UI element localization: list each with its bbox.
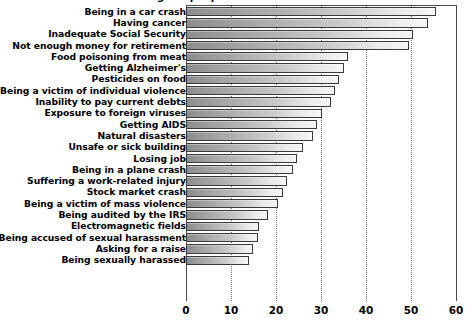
bar: [186, 176, 287, 185]
bar-track: [186, 233, 456, 242]
category-label: Inadequate Social Security: [48, 29, 186, 39]
bar-track: [186, 165, 456, 174]
chart-row: Being a victim of mass violence: [0, 198, 474, 209]
bar: [186, 154, 297, 163]
chart-row: Being accused of sexual harassment: [0, 232, 474, 243]
bar-track: [186, 244, 456, 253]
chart-title: Percentage of people worried about each …: [0, 0, 474, 2]
category-label: Being a victim of mass violence: [24, 199, 186, 209]
bar: [186, 109, 322, 118]
x-axis-tick-label: 50: [404, 304, 419, 316]
category-label: Pesticides on food: [92, 74, 186, 84]
bar: [186, 75, 339, 84]
chart-row: Electromagnetic fields: [0, 221, 474, 232]
bar-track: [186, 256, 456, 265]
chart-row: Suffering a work-related injury: [0, 175, 474, 186]
category-label: Losing job: [133, 154, 186, 164]
bar-track: [186, 120, 456, 129]
x-axis-tick-label: 10: [224, 304, 239, 316]
chart-row: Inability to pay current debts: [0, 96, 474, 107]
chart-row: Unsafe or sick building: [0, 142, 474, 153]
category-label: Being audited by the IRS: [58, 210, 186, 220]
bar: [186, 7, 436, 16]
bar: [186, 18, 428, 27]
category-label: Natural disasters: [97, 131, 186, 141]
category-label: Electromagnetic fields: [71, 221, 186, 231]
category-label: Being sexually harassed: [61, 255, 186, 265]
bar: [186, 63, 344, 72]
bar-track: [186, 86, 456, 95]
chart-rows: Being in a car crashHaving cancerInadequ…: [0, 6, 474, 301]
bar-track: [186, 222, 456, 231]
category-label: Not enough money for retirement: [12, 41, 186, 51]
bar-track: [186, 176, 456, 185]
bar: [186, 199, 278, 208]
category-label: Stock market crash: [87, 187, 186, 197]
bar-track: [186, 63, 456, 72]
category-label: Being in a plane crash: [72, 165, 186, 175]
bar-track: [186, 109, 456, 118]
bar: [186, 30, 413, 39]
chart-row: Inadequate Social Security: [0, 29, 474, 40]
bar: [186, 256, 249, 265]
bar: [186, 143, 303, 152]
category-label: Asking for a raise: [96, 244, 186, 254]
x-axis-tick-label: 0: [182, 304, 189, 316]
chart-row: Asking for a raise: [0, 243, 474, 254]
chart-row: Being a victim of individual violence: [0, 85, 474, 96]
bar: [186, 97, 331, 106]
chart-row: Being sexually harassed: [0, 255, 474, 266]
chart-row: Being in a plane crash: [0, 164, 474, 175]
bar: [186, 188, 283, 197]
bar: [186, 52, 348, 61]
bar-track: [186, 188, 456, 197]
x-axis-tick-label: 60: [449, 304, 464, 316]
category-label: Being in a car crash: [84, 7, 186, 17]
bar: [186, 131, 313, 140]
bar: [186, 165, 293, 174]
x-axis-tick-label: 20: [269, 304, 284, 316]
bar: [186, 244, 253, 253]
category-label: Getting Alzheimer's: [85, 63, 186, 73]
category-label: Being accused of sexual harassment: [0, 233, 186, 243]
bar-track: [186, 41, 456, 50]
category-label: Having cancer: [113, 18, 186, 28]
bar-track: [186, 75, 456, 84]
chart-row: Natural disasters: [0, 130, 474, 141]
bar-track: [186, 18, 456, 27]
bar: [186, 41, 409, 50]
bar-track: [186, 154, 456, 163]
chart-row: Stock market crash: [0, 187, 474, 198]
chart-row: Not enough money for retirement: [0, 40, 474, 51]
bar: [186, 210, 268, 219]
chart-row: Being audited by the IRS: [0, 209, 474, 220]
category-label: Suffering a work-related injury: [27, 176, 186, 186]
bar-track: [186, 97, 456, 106]
bar: [186, 120, 317, 129]
bar-track: [186, 30, 456, 39]
category-label: Exposure to foreign viruses: [44, 108, 186, 118]
bar-track: [186, 199, 456, 208]
chart-row: Being in a car crash: [0, 6, 474, 17]
chart-row: Getting Alzheimer's: [0, 62, 474, 73]
chart-row: Having cancer: [0, 17, 474, 28]
bar: [186, 86, 335, 95]
bar-track: [186, 52, 456, 61]
category-label: Food poisoning from meat: [51, 52, 186, 62]
bar-track: [186, 210, 456, 219]
chart-row: Food poisoning from meat: [0, 51, 474, 62]
category-label: Unsafe or sick building: [68, 142, 186, 152]
bar-track: [186, 131, 456, 140]
chart-row: Getting AIDS: [0, 119, 474, 130]
category-label: Being a victim of individual violence: [0, 86, 186, 96]
x-axis-tick-label: 40: [359, 304, 374, 316]
bar-track: [186, 143, 456, 152]
chart-row: Losing job: [0, 153, 474, 164]
bar: [186, 222, 259, 231]
category-label: Getting AIDS: [120, 120, 186, 130]
x-axis-tick-label: 30: [314, 304, 329, 316]
category-label: Inability to pay current debts: [35, 97, 186, 107]
bar-track: [186, 7, 456, 16]
bar-chart: Percentage of people worried about each …: [0, 0, 474, 323]
chart-row: Pesticides on food: [0, 74, 474, 85]
